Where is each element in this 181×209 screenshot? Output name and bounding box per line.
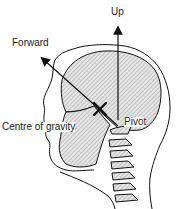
diagram-canvas xyxy=(0,0,181,209)
neck-front xyxy=(60,172,115,209)
jaw-shaded xyxy=(59,106,110,167)
centre-of-gravity-label: Centre of gravity xyxy=(2,122,75,132)
head-balance-diagram: Up Forward Centre of gravity Pivot xyxy=(0,0,181,209)
cervical-vertebrae xyxy=(109,124,138,202)
forward-label: Forward xyxy=(12,38,49,48)
up-label: Up xyxy=(111,7,124,17)
pivot-label: Pivot xyxy=(124,117,146,127)
